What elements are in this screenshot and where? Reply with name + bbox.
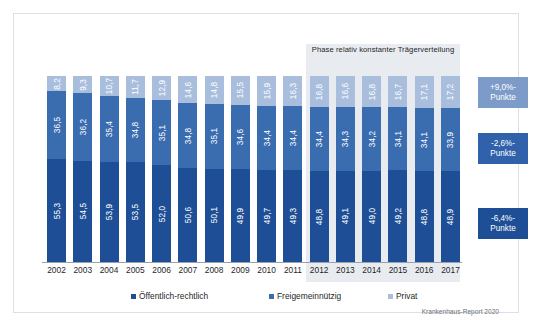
bar-segment-value: 16,6 [341,83,350,99]
stacked-bar-plot-area: 8,236,555,39,336,254,510,735,453,911,734… [47,76,460,262]
bar-segment-value: 17,1 [420,84,429,100]
bar-segment-value: 54,5 [78,203,87,219]
x-tick-2007: 2007 [178,265,197,275]
bar-segment-freigemeinn-tzig: 33,9 [441,108,460,171]
bar-segment-ffentlich-rechtlich: 49,7 [257,170,276,262]
callout-value: -6,4%- [491,214,515,224]
x-tick-2006: 2006 [152,265,171,275]
bar-segment-value: 49,0 [367,208,376,224]
legend-label: Öffentlich-rechtlich [139,291,208,301]
bar-segment-freigemeinn-tzig: 34,6 [231,105,250,169]
bar-segment-freigemeinn-tzig: 34,1 [388,107,407,170]
callout-oeffentlich-rechtlich: -6,4%- Punkte [478,208,528,239]
callout-value: +9,0%- [490,83,516,93]
bar-segment-freigemeinn-tzig: 34,4 [283,106,302,170]
bar-segment-ffentlich-rechtlich: 52,0 [152,165,171,262]
bar-segment-value: 34,1 [420,131,429,147]
x-tick-2003: 2003 [73,265,92,275]
bar-segment-value: 14,8 [210,82,219,98]
legend-item: Öffentlich-rechtlich [131,291,208,301]
bar-column: 16,634,349,1 [336,76,355,262]
bar-segment-freigemeinn-tzig: 35,1 [152,100,171,165]
bar-segment-value: 36,2 [78,119,87,135]
bar-segment-freigemeinn-tzig: 36,2 [73,93,92,160]
x-tick-2004: 2004 [100,265,119,275]
bar-segment-ffentlich-rechtlich: 54,5 [73,161,92,262]
bar-segment-ffentlich-rechtlich: 49,3 [283,170,302,262]
bar-segment-ffentlich-rechtlich: 53,9 [100,162,119,262]
callout-freigemeinnuetzig: -2,6%- Punkte [478,133,528,164]
bar-segment-privat: 16,8 [362,76,381,107]
bar-segment-value: 16,8 [315,83,324,99]
callout-value: -2,6%- [491,139,515,149]
bar-segment-value: 35,1 [157,124,166,140]
x-tick-2005: 2005 [126,265,145,275]
bar-segment-ffentlich-rechtlich: 48,8 [415,171,434,262]
bar-column: 8,236,555,3 [47,76,66,262]
bar-segment-ffentlich-rechtlich: 53,5 [126,162,145,262]
chart-frame: Phase relativ konstanter Trägerverteilun… [13,13,519,313]
bar-segment-value: 11,7 [131,79,140,95]
source-attribution: Krankenhaus-Report 2020 [422,308,499,315]
bar-segment-value: 36,5 [52,117,61,133]
bar-column: 15,534,649,9 [231,76,250,262]
x-tick-2009: 2009 [231,265,250,275]
bar-column: 9,336,254,5 [73,76,92,262]
bar-segment-ffentlich-rechtlich: 55,3 [47,159,66,262]
bar-segment-value: 15,9 [262,83,271,99]
bar-column: 16,834,448,8 [310,76,329,262]
bar-segment-freigemeinn-tzig: 35,4 [100,96,119,162]
bar-segment-privat: 14,6 [178,76,197,103]
bar-column: 17,233,948,9 [441,76,460,262]
bar-segment-value: 34,2 [367,131,376,147]
bar-segment-value: 49,9 [236,207,245,223]
bar-segment-ffentlich-rechtlich: 48,9 [441,171,460,262]
legend-label: Privat [396,291,417,301]
bar-segment-privat: 9,3 [73,76,92,93]
chart-legend: Öffentlich-rechtlichFreigemeinnützigPriv… [47,291,460,305]
bar-segment-privat: 14,8 [205,76,224,104]
legend-swatch-icon [131,294,136,299]
x-tick-2016: 2016 [415,265,434,275]
legend-item: Freigemeinnützig [269,291,341,301]
bar-segment-value: 14,6 [183,81,192,97]
bar-column: 14,634,850,6 [178,76,197,262]
legend-swatch-icon [388,294,393,299]
bar-segment-freigemeinn-tzig: 34,1 [415,108,434,171]
x-tick-2010: 2010 [257,265,276,275]
x-axis-line [42,262,462,263]
bar-segment-freigemeinn-tzig: 36,5 [47,91,66,159]
bar-segment-privat: 15,5 [231,76,250,105]
bar-segment-value: 34,6 [236,129,245,145]
bar-segment-value: 10,7 [105,78,114,94]
callout-unit: Punkte [490,149,516,159]
bar-segment-ffentlich-rechtlich: 49,1 [336,171,355,262]
bar-segment-value: 34,8 [183,127,192,143]
bar-column: 15,934,449,7 [257,76,276,262]
bar-segment-freigemeinn-tzig: 34,4 [257,106,276,170]
bar-segment-value: 35,1 [210,128,219,144]
bar-segment-value: 53,5 [131,204,140,220]
x-tick-2017: 2017 [441,265,460,275]
bar-segment-privat: 16,3 [283,76,302,106]
bar-segment-value: 34,4 [262,129,271,145]
x-tick-2002: 2002 [47,265,66,275]
bar-column: 16,834,249,0 [362,76,381,262]
bar-segment-value: 34,4 [288,130,297,146]
bar-segment-value: 16,3 [288,83,297,99]
phase-annotation-label: Phase relativ konstanter Trägerverteilun… [306,45,460,54]
bar-segment-privat: 17,2 [441,76,460,108]
bar-segment-privat: 16,6 [336,76,355,107]
bar-segment-value: 48,8 [420,208,429,224]
bar-segment-value: 48,9 [446,208,455,224]
legend-item: Privat [388,291,417,301]
bar-segment-privat: 15,9 [257,76,276,106]
callout-privat: +9,0%- Punkte [478,77,528,108]
bar-segment-freigemeinn-tzig: 34,8 [178,103,197,168]
bar-segment-ffentlich-rechtlich: 49,2 [388,170,407,262]
bar-segment-value: 15,5 [236,82,245,98]
x-tick-2008: 2008 [205,265,224,275]
bar-segment-value: 17,2 [446,84,455,100]
bar-segment-value: 53,9 [105,204,114,220]
bar-segment-freigemeinn-tzig: 34,8 [126,98,145,163]
